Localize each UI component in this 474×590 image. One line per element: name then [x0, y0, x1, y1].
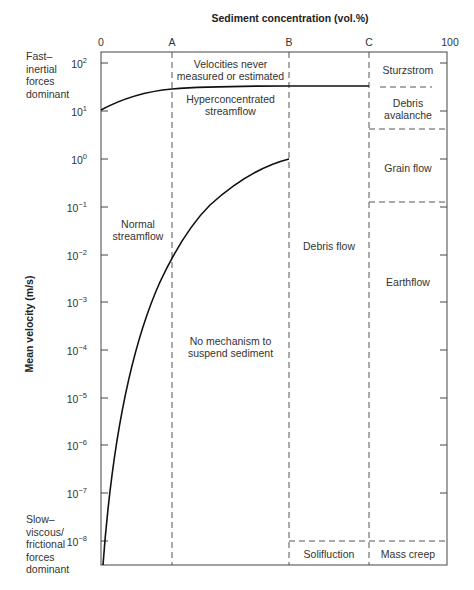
- y-tick-label: 101: [47, 104, 87, 118]
- slow-viscous-label: Slow–viscous/frictionalforcesdominant: [26, 513, 69, 576]
- y-tick-label: 100: [47, 152, 87, 166]
- fast-inertial-label: Fast–inertialforcesdominant: [26, 50, 69, 100]
- region-earthflow: Earthflow: [369, 276, 447, 288]
- region-never-measured: Velocities nevermeasured or estimated: [172, 58, 289, 82]
- x-tick-b: B: [285, 36, 292, 48]
- y-tick-label: 10−1: [47, 200, 87, 214]
- region-normal-streamflow: Normalstreamflow: [108, 218, 168, 242]
- region-solifluction: Solifluction: [289, 548, 369, 560]
- x-tick-c: C: [365, 36, 373, 48]
- y-tick-label: 10−5: [47, 391, 87, 405]
- x-axis-title: Sediment concentration (vol.%): [170, 12, 410, 24]
- concentration-boundaries: [172, 52, 369, 565]
- x-tick-100: 100: [441, 36, 459, 48]
- y-axis-ticks: [101, 63, 108, 541]
- x-tick-a: A: [168, 36, 175, 48]
- region-debris-avalanche: Debrisavalanche: [369, 97, 447, 121]
- region-no-mechanism: No mechanism tosuspend sediment: [172, 335, 289, 359]
- region-debris-flow: Debris flow: [289, 240, 369, 252]
- region-mass-creep: Mass creep: [369, 548, 447, 560]
- y-tick-label: 10−2: [47, 248, 87, 262]
- y-tick-label: 10−3: [47, 295, 87, 309]
- region-sturzstrom: Sturzstrom: [369, 64, 447, 76]
- plot-frame: [101, 52, 447, 565]
- region-grain-flow: Grain flow: [369, 162, 447, 174]
- y-axis-title: Mean velocity (m/s): [23, 269, 35, 379]
- y-tick-label: 10−7: [47, 486, 87, 500]
- y-tick-label: 10−4: [47, 343, 87, 357]
- x-tick-0: 0: [98, 36, 104, 48]
- region-separators: [289, 87, 447, 541]
- y-tick-label: 10−6: [47, 438, 87, 452]
- region-hyperconcentrated: Hyperconcentratedstreamflow: [172, 93, 289, 117]
